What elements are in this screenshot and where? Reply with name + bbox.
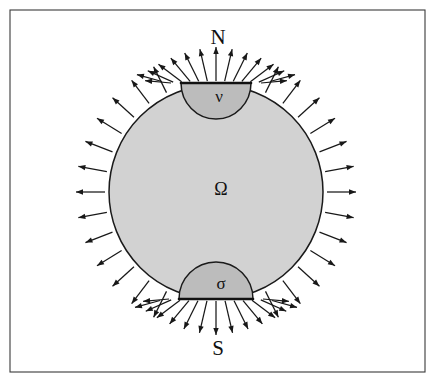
boundary-flux-arrow-head [132,297,138,304]
boundary-flux-arrow-head [273,67,279,74]
north-pole-flux-arrow-head [185,53,191,60]
interior-domain-label: Ω [214,179,227,199]
boundary-flux-arrow-head [339,238,347,243]
boundary-flux-arrow-head [97,118,104,124]
boundary-flux-arrow-head [78,214,85,219]
boundary-flux-arrow-head [154,67,160,74]
south-pole-flux-arrow-head [290,303,297,308]
north-cap-label: ν [215,87,223,106]
diagram-canvas: N S Ω ν σ [0,0,437,383]
south-pole-flux-arrow-head [213,328,218,335]
south-pole-flux-arrow-head [243,322,249,329]
boundary-flux-arrow-head [85,238,93,243]
south-pole-flux-arrow-head [135,303,142,308]
boundary-flux-arrow-head [339,141,347,146]
boundary-flux-arrow-head [328,118,335,124]
boundary-flux-arrow-head [85,141,93,146]
boundary-flux-arrow-head [78,165,85,170]
boundary-flux-arrow-head [346,165,353,170]
north-pole-flux-arrow-head [277,71,284,76]
south-pole-label: S [212,336,224,360]
boundary-flux-arrow-head [346,214,353,219]
north-pole-label: N [210,25,225,49]
north-pole-flux-arrow-head [137,74,144,79]
north-pole-flux-arrow-head [148,71,155,76]
north-pole-flux-arrow-head [288,74,295,79]
diagram-figure: N S Ω ν σ [0,0,437,383]
north-pole-flux-arrow-head [242,53,248,60]
boundary-flux-arrow-head [132,80,138,87]
boundary-flux-arrow-head [328,260,335,266]
boundary-flux-arrow-head [97,260,104,266]
boundary-flux-arrow-head [294,297,300,304]
south-pole-flux-arrow-head [184,322,190,329]
boundary-flux-arrow-head [294,80,300,87]
boundary-flux-arrow-head [76,189,83,194]
south-pole-flux-arrow-head [279,306,286,311]
south-cap-label: σ [216,274,225,293]
south-pole-flux-arrow-head [146,306,153,311]
boundary-flux-arrow-head [349,189,356,194]
